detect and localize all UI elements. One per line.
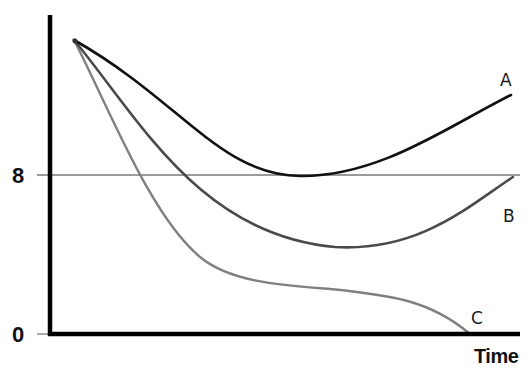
start-point [73, 39, 78, 44]
series-label-a: A [500, 70, 512, 90]
series-a-line [74, 40, 511, 176]
line-chart: 8 0 A B C Time [0, 0, 529, 376]
y-tick-label-8: 8 [12, 163, 24, 188]
x-axis-title: Time [474, 345, 519, 367]
series-c-line [74, 40, 470, 334]
series-b-line [74, 40, 513, 247]
y-tick-label-0: 0 [12, 322, 24, 347]
series-label-c: C [471, 308, 483, 328]
series-label-b: B [503, 206, 515, 226]
